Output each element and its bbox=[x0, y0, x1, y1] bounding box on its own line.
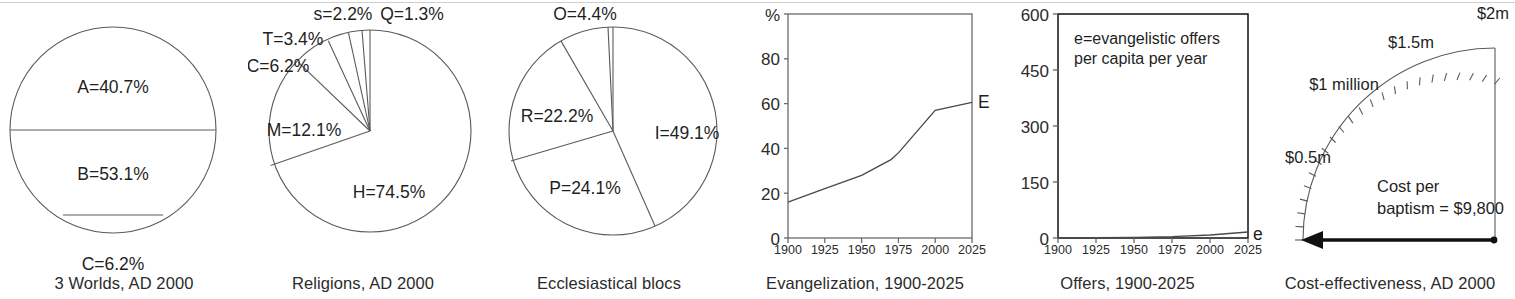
label-bloc-i: I=49.1% bbox=[655, 123, 720, 143]
panel-ecclesiastical-blocs: I=49.1% P=24.1% R=22.2% O=4.4% Ecclesias… bbox=[478, 0, 740, 299]
x-tick-2025: 2025 bbox=[1234, 243, 1262, 257]
x-tick-2000: 2000 bbox=[1196, 243, 1224, 257]
evangelization-chart: % 80 60 40 20 0 1900 1925 1950 1975 2000… bbox=[740, 0, 990, 299]
x-tick-2000: 2000 bbox=[921, 243, 949, 257]
series-line-e bbox=[1058, 232, 1248, 238]
label-bloc-p: P=24.1% bbox=[549, 178, 621, 198]
panel-offers: 600 450 300 150 0 1900 1925 1950 1975 20… bbox=[990, 0, 1265, 299]
y-tick-40: 40 bbox=[761, 140, 780, 159]
x-tick-1950: 1950 bbox=[848, 243, 876, 257]
caption-ecclesiastical-blocs: Ecclesiastical blocs bbox=[478, 274, 740, 293]
plot-frame bbox=[788, 14, 972, 238]
gauge-needle-arrowhead bbox=[1301, 231, 1323, 249]
label-religion-m: M=12.1% bbox=[267, 120, 341, 140]
gauge-label-two-million: $2m bbox=[1477, 4, 1509, 22]
panel-religions: H=74.5% M=12.1% C=6.2% T=3.4% s=2.2% Q=1… bbox=[248, 0, 478, 299]
gauge-label-one-million: $1 million bbox=[1309, 75, 1379, 93]
label-world-a: A=40.7% bbox=[77, 77, 149, 97]
caption-evangelization: Evangelization, 1900-2025 bbox=[740, 274, 990, 293]
cost-effectiveness-gauge: $0.5m $1 million $1.5m $2m Cost per bapt… bbox=[1265, 0, 1515, 299]
gauge-note-line1: Cost per bbox=[1377, 177, 1440, 195]
slice-edge-o bbox=[608, 27, 613, 131]
label-religion-h: H=74.5% bbox=[353, 182, 425, 202]
label-world-b: B=53.1% bbox=[77, 164, 149, 184]
label-world-c: C=6.2% bbox=[82, 254, 145, 274]
offers-note-line2: per capita per year bbox=[1074, 50, 1208, 67]
x-tick-1975: 1975 bbox=[884, 243, 912, 257]
series-label-E: E bbox=[978, 92, 990, 112]
y-tick-20: 20 bbox=[761, 185, 780, 204]
y-tick-80: 80 bbox=[761, 50, 780, 69]
label-bloc-r: R=22.2% bbox=[521, 106, 593, 126]
offers-note-line1: e=evangelistic offers bbox=[1074, 30, 1220, 47]
y-tick-300: 300 bbox=[1021, 118, 1049, 137]
label-bloc-o: O=4.4% bbox=[553, 4, 617, 24]
three-worlds-diagram: A=40.7% B=53.1% C=6.2% bbox=[0, 0, 248, 299]
x-tick-1975: 1975 bbox=[1158, 243, 1186, 257]
y-tick-600: 600 bbox=[1021, 6, 1049, 25]
plot-frame bbox=[1058, 14, 1248, 238]
label-religion-c: C=6.2% bbox=[248, 56, 309, 76]
caption-offers: Offers, 1900-2025 bbox=[990, 274, 1265, 293]
offers-chart: 600 450 300 150 0 1900 1925 1950 1975 20… bbox=[990, 0, 1265, 299]
series-line-e bbox=[788, 102, 972, 202]
y-tick-450: 450 bbox=[1021, 62, 1049, 81]
label-religion-s: s=2.2% bbox=[314, 4, 373, 24]
slice-edge-s bbox=[349, 33, 371, 131]
gauge-note-line2: baptism = $9,800 bbox=[1377, 199, 1504, 217]
ecclesiastical-blocs-pie: I=49.1% P=24.1% R=22.2% O=4.4% bbox=[478, 0, 740, 299]
series-label-e: e bbox=[1253, 224, 1263, 244]
y-axis-unit: % bbox=[765, 6, 780, 25]
x-tick-2025: 2025 bbox=[958, 243, 986, 257]
panel-cost-effectiveness: $0.5m $1 million $1.5m $2m Cost per bapt… bbox=[1265, 0, 1515, 299]
x-tick-1950: 1950 bbox=[1120, 243, 1148, 257]
x-tick-1900: 1900 bbox=[1044, 243, 1072, 257]
religions-pie: H=74.5% M=12.1% C=6.2% T=3.4% s=2.2% Q=1… bbox=[248, 0, 478, 299]
y-tick-60: 60 bbox=[761, 95, 780, 114]
caption-religions: Religions, AD 2000 bbox=[248, 274, 478, 293]
caption-three-worlds: 3 Worlds, AD 2000 bbox=[0, 274, 248, 293]
x-tick-1925: 1925 bbox=[1082, 243, 1110, 257]
y-tick-150: 150 bbox=[1021, 174, 1049, 193]
caption-cost-effectiveness: Cost-effectiveness, AD 2000 bbox=[1265, 274, 1515, 293]
panel-three-worlds: A=40.7% B=53.1% C=6.2% 3 Worlds, AD 2000 bbox=[0, 0, 248, 299]
statistics-figure: A=40.7% B=53.1% C=6.2% 3 Worlds, AD 2000… bbox=[0, 0, 1515, 299]
label-religion-q: Q=1.3% bbox=[380, 4, 444, 24]
x-tick-1925: 1925 bbox=[811, 243, 839, 257]
panel-evangelization: % 80 60 40 20 0 1900 1925 1950 1975 2000… bbox=[740, 0, 990, 299]
gauge-label-half-million: $0.5m bbox=[1285, 148, 1331, 166]
x-tick-1900: 1900 bbox=[774, 243, 802, 257]
gauge-label-one-half-million: $1.5m bbox=[1388, 33, 1434, 51]
label-religion-t: T=3.4% bbox=[263, 29, 324, 49]
gauge-pivot bbox=[1491, 237, 1498, 244]
slice-edge-p bbox=[511, 131, 613, 161]
